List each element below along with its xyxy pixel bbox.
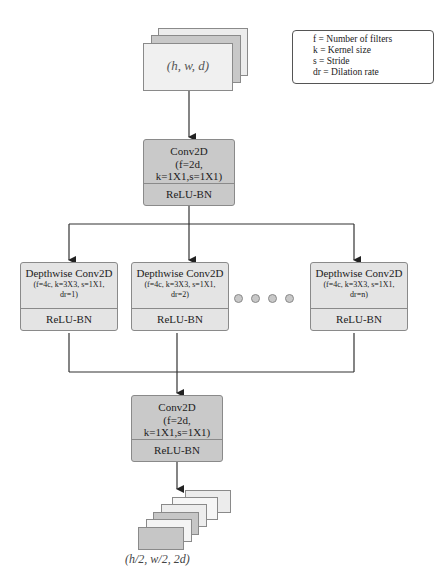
depthwise-block-1: Depthwise Conv2D (f=4c, k=3X3, s=1X1, dr… xyxy=(20,262,118,331)
legend-box: f = Number of filters k = Kernel size s … xyxy=(292,30,434,84)
depthwise-1-params2: dr=1) xyxy=(21,290,117,300)
conv2d-bottom-activation: ReLU-BN xyxy=(132,439,222,461)
depthwise-2-activation: ReLU-BN xyxy=(132,308,228,330)
depthwise-2-title: Depthwise Conv2D xyxy=(132,267,228,280)
depthwise-n-params1: (f=4c, k=3X3, s=1X1, xyxy=(311,280,407,290)
depthwise-n-params2: dr=n) xyxy=(311,290,407,300)
output-shape-label: (h/2, w/2, 2d) xyxy=(125,552,245,567)
ellipsis-dot-icon xyxy=(251,294,260,303)
conv2d-block-top: Conv2D (f=2d, k=1X1,s=1X1) ReLU-BN xyxy=(143,139,235,206)
conv2d-top-activation: ReLU-BN xyxy=(144,183,234,205)
depthwise-n-activation: ReLU-BN xyxy=(311,308,407,330)
conv2d-bottom-params1: (f=2d, xyxy=(132,414,222,427)
ellipsis-dot-icon xyxy=(234,294,243,303)
ellipsis-dot-icon xyxy=(285,294,294,303)
conv2d-bottom-params2: k=1X1,s=1X1) xyxy=(132,426,222,439)
conv2d-bottom-title: Conv2D xyxy=(132,401,222,414)
legend-line-filters: f = Number of filters xyxy=(313,34,433,45)
ellipsis-dot-icon xyxy=(268,294,277,303)
depthwise-2-params2: dr=2) xyxy=(132,290,228,300)
input-shape-label: (h, w, d) xyxy=(143,58,233,74)
depthwise-1-title: Depthwise Conv2D xyxy=(21,267,117,280)
conv2d-block-bottom: Conv2D (f=2d, k=1X1,s=1X1) ReLU-BN xyxy=(131,395,223,462)
depthwise-1-header: Depthwise Conv2D (f=4c, k=3X3, s=1X1, dr… xyxy=(21,263,117,309)
depthwise-n-title: Depthwise Conv2D xyxy=(311,267,407,280)
legend-line-dilation: dr = Dilation rate xyxy=(313,67,433,78)
legend-line-stride: s = Stride xyxy=(313,56,433,67)
depthwise-n-header: Depthwise Conv2D (f=4c, k=3X3, s=1X1, dr… xyxy=(311,263,407,309)
conv2d-top-params2: k=1X1,s=1X1) xyxy=(144,170,234,183)
conv2d-top-params1: (f=2d, xyxy=(144,158,234,171)
depthwise-1-activation: ReLU-BN xyxy=(21,308,117,330)
output-sheet xyxy=(138,527,184,550)
conv2d-bottom-header: Conv2D (f=2d, k=1X1,s=1X1) xyxy=(132,396,222,444)
conv2d-top-title: Conv2D xyxy=(144,145,234,158)
depthwise-2-header: Depthwise Conv2D (f=4c, k=3X3, s=1X1, dr… xyxy=(132,263,228,309)
depthwise-block-n: Depthwise Conv2D (f=4c, k=3X3, s=1X1, dr… xyxy=(310,262,408,331)
depthwise-1-params1: (f=4c, k=3X3, s=1X1, xyxy=(21,280,117,290)
conv2d-top-header: Conv2D (f=2d, k=1X1,s=1X1) xyxy=(144,140,234,188)
depthwise-2-params1: (f=4c, k=3X3, s=1X1, xyxy=(132,280,228,290)
legend-line-kernel: k = Kernel size xyxy=(313,45,433,56)
depthwise-block-2: Depthwise Conv2D (f=4c, k=3X3, s=1X1, dr… xyxy=(131,262,229,331)
